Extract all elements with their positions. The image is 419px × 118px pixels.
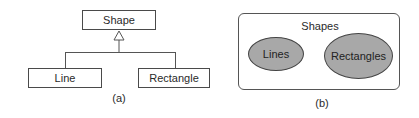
- connector-horizontal: [65, 52, 176, 53]
- shape-class-box: Shape: [82, 10, 156, 30]
- rectangles-set-ellipse: Rectangles: [324, 33, 393, 79]
- rectangle-class-label: Rectangle: [149, 72, 199, 84]
- shape-class-label: Shape: [103, 14, 135, 26]
- caption-b: (b): [307, 97, 337, 109]
- line-class-box: Line: [28, 68, 102, 88]
- caption-a: (a): [104, 92, 134, 104]
- line-class-label: Line: [55, 72, 76, 84]
- connector-to-rectangle: [175, 52, 176, 68]
- connector-to-line: [65, 52, 66, 68]
- lines-set-ellipse: Lines: [248, 37, 304, 71]
- rectangles-set-label: Rectangles: [331, 50, 386, 62]
- generalization-arrow-icon: [112, 30, 126, 52]
- lines-set-label: Lines: [263, 48, 289, 60]
- rectangle-class-box: Rectangle: [138, 68, 210, 88]
- shapes-container-label: Shapes: [290, 20, 350, 32]
